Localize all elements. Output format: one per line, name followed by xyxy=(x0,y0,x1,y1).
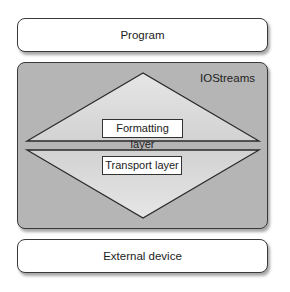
transport-layer-label: Transport layer xyxy=(102,156,182,175)
external-device-label: External device xyxy=(18,250,267,262)
formatting-layer-label: Formatting layer xyxy=(102,119,183,138)
external-device-box: External device xyxy=(17,239,268,273)
